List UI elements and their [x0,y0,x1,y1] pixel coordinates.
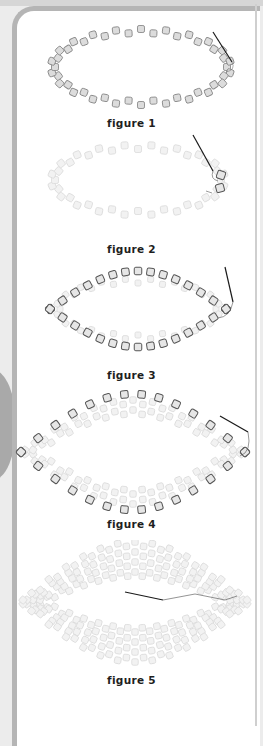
figure-1-caption: figure 1 [0,117,263,129]
figure-2: figure 2 [0,133,263,258]
figure-4: figure 4 [0,390,263,535]
figure-2-caption: figure 2 [0,243,263,255]
figure-1-illustration [0,20,263,115]
figure-1: figure 1 [0,20,263,135]
figure-4-caption: figure 4 [0,518,263,530]
figure-5-caption: figure 5 [0,674,263,686]
figure-5: figure 5 [0,540,263,700]
figure-2-illustration [0,133,263,233]
figure-4-illustration [0,390,263,518]
figure-3-caption: figure 3 [0,369,263,381]
figure-3: figure 3 [0,262,263,387]
figure-5-illustration [0,540,263,670]
figure-3-illustration [0,262,263,362]
